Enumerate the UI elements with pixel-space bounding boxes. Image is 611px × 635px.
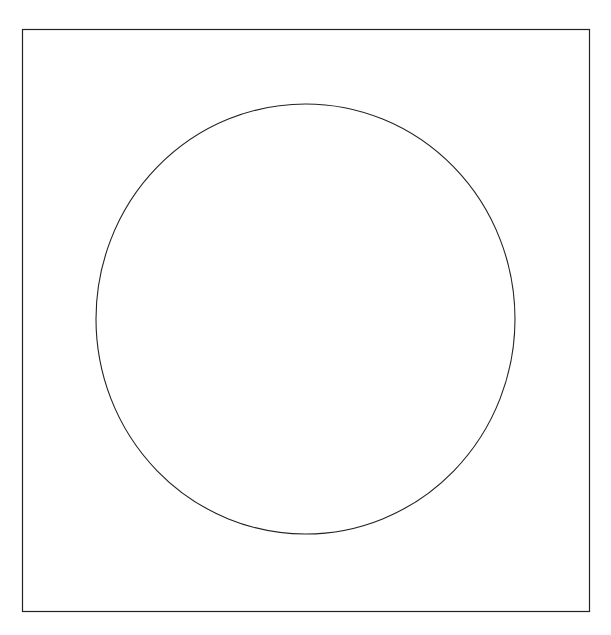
diagram-canvas [0, 0, 611, 635]
frame-rectangle [23, 30, 590, 612]
circle-shape [96, 104, 515, 534]
